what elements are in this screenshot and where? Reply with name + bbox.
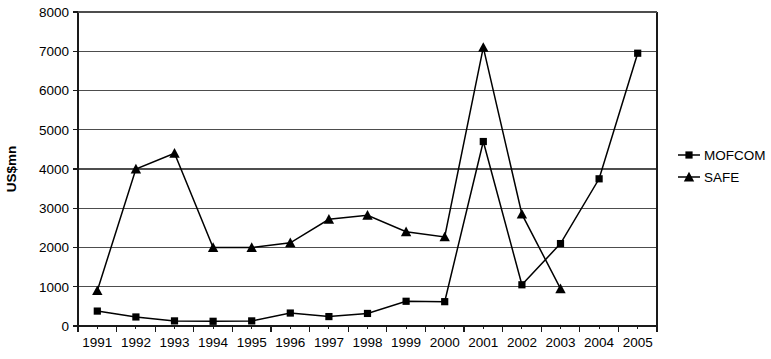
datapoint-safe-1996 bbox=[285, 238, 295, 248]
datapoint-mofcom-1995 bbox=[248, 317, 255, 324]
datapoint-safe-2003 bbox=[555, 284, 565, 294]
y-tick-label: 5000 bbox=[39, 123, 69, 138]
datapoint-mofcom-1991 bbox=[94, 307, 101, 314]
x-tick-label: 1991 bbox=[82, 335, 112, 350]
datapoint-safe-2002 bbox=[517, 209, 527, 219]
x-tick-label: 1998 bbox=[352, 335, 382, 350]
datapoint-mofcom-1998 bbox=[364, 310, 371, 317]
y-tick-label: 3000 bbox=[39, 201, 69, 216]
x-tick-label: 2005 bbox=[623, 335, 653, 350]
x-tick-label: 2002 bbox=[507, 335, 537, 350]
datapoint-safe-2001 bbox=[478, 42, 488, 52]
y-tick-label: 6000 bbox=[39, 83, 69, 98]
x-tick-label: 2004 bbox=[584, 335, 615, 350]
x-tick-label: 2001 bbox=[468, 335, 498, 350]
y-tick-label: 0 bbox=[61, 319, 69, 334]
chart-container: 0100020003000400050006000700080001991199… bbox=[0, 0, 771, 359]
y-axis-title: US$mn bbox=[4, 146, 19, 193]
x-tick-label: 1995 bbox=[237, 335, 267, 350]
datapoint-mofcom-2003 bbox=[557, 240, 564, 247]
datapoint-safe-1998 bbox=[362, 210, 372, 220]
legend-item-mofcom[interactable]: MOFCOM bbox=[678, 148, 766, 163]
datapoint-mofcom-1996 bbox=[287, 309, 294, 316]
datapoint-safe-1993 bbox=[169, 148, 179, 158]
datapoint-mofcom-1997 bbox=[325, 313, 332, 320]
x-tick-label: 1999 bbox=[391, 335, 421, 350]
datapoint-mofcom-1993 bbox=[171, 317, 178, 324]
datapoint-mofcom-2000 bbox=[441, 298, 448, 305]
datapoint-safe-1999 bbox=[401, 227, 411, 237]
legend-marker-square bbox=[685, 151, 692, 158]
line-chart: 0100020003000400050006000700080001991199… bbox=[0, 0, 771, 359]
legend-label: SAFE bbox=[704, 170, 739, 185]
x-tick-label: 1992 bbox=[121, 335, 151, 350]
datapoint-mofcom-2002 bbox=[518, 281, 525, 288]
x-tick-label: 1996 bbox=[275, 335, 305, 350]
y-tick-label: 4000 bbox=[39, 162, 69, 177]
datapoint-mofcom-2004 bbox=[596, 175, 603, 182]
y-tick-label: 8000 bbox=[39, 5, 69, 20]
datapoint-mofcom-1992 bbox=[132, 313, 139, 320]
x-tick-label: 1997 bbox=[314, 335, 344, 350]
datapoint-mofcom-1999 bbox=[403, 298, 410, 305]
legend-item-safe[interactable]: SAFE bbox=[678, 170, 739, 185]
legend-label: MOFCOM bbox=[704, 148, 766, 163]
x-tick-label: 1993 bbox=[159, 335, 189, 350]
y-tick-label: 1000 bbox=[39, 280, 69, 295]
datapoint-mofcom-2001 bbox=[480, 138, 487, 145]
y-tick-label: 7000 bbox=[39, 44, 69, 59]
datapoint-mofcom-1994 bbox=[210, 318, 217, 325]
x-tick-label: 2003 bbox=[545, 335, 575, 350]
x-tick-label: 1994 bbox=[198, 335, 229, 350]
y-tick-label: 2000 bbox=[39, 240, 69, 255]
datapoint-mofcom-2005 bbox=[634, 50, 641, 57]
x-tick-label: 2000 bbox=[430, 335, 460, 350]
